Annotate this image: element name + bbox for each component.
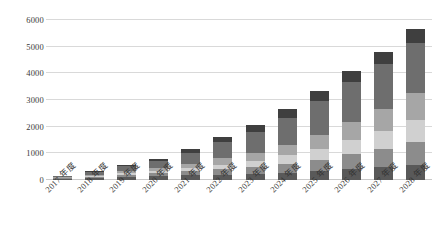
bar-column [303, 20, 335, 180]
x-axis-tick: 2022 年度 [207, 182, 239, 238]
bar-segment [278, 109, 297, 117]
bar-segment [310, 101, 329, 135]
bar-column [175, 20, 207, 180]
bar-segment [278, 118, 297, 145]
y-axis-tick-label: 0 [0, 175, 44, 185]
x-axis-tick: 2019 年度 [110, 182, 142, 238]
bar-segment [374, 64, 393, 109]
x-axis-tick: 2026 年度 [335, 182, 367, 238]
y-axis-tick-label: 4000 [0, 68, 44, 78]
x-axis-tick: 2027 年度 [368, 182, 400, 238]
bar-segment [310, 91, 329, 101]
bar-column [143, 20, 175, 180]
y-axis-tick-label: 5000 [0, 42, 44, 52]
bar-segment [342, 122, 361, 140]
bar-segment [342, 71, 361, 82]
bar-segment [213, 142, 232, 158]
bar-column [271, 20, 303, 180]
x-axis-tick: 2018 年度 [78, 182, 110, 238]
bar-column [400, 20, 432, 180]
x-axis-tick: 2024 年度 [271, 182, 303, 238]
bar-column [368, 20, 400, 180]
x-axis-tick: 2028 年度 [400, 182, 432, 238]
bar-column [46, 20, 78, 180]
bar-segment [246, 125, 265, 132]
bar-segment [406, 93, 425, 120]
bar-segment [342, 140, 361, 154]
x-axis-tick: 2023 年度 [239, 182, 271, 238]
x-axis-tick: 2021 年度 [175, 182, 207, 238]
bar-segment [342, 82, 361, 123]
y-axis-tick-label: 3000 [0, 95, 44, 105]
bar-column [239, 20, 271, 180]
bar-segment [406, 29, 425, 42]
bar-column [207, 20, 239, 180]
bar-segment [246, 132, 265, 153]
x-axis-tick: 2020 年度 [143, 182, 175, 238]
y-axis-tick-label: 1000 [0, 148, 44, 158]
bar-column [78, 20, 110, 180]
bar-segment [374, 52, 393, 64]
bar-column [335, 20, 367, 180]
bar-column [110, 20, 142, 180]
bar-segment [374, 109, 393, 131]
x-axis: 2017 年度2018 年度2019 年度2020 年度2021 年度2022 … [46, 182, 432, 238]
x-axis-tick: 2025 年度 [303, 182, 335, 238]
bar-series-group [46, 20, 432, 180]
bar-segment [406, 120, 425, 142]
y-axis-tick-label: 2000 [0, 122, 44, 132]
bar-segment [406, 43, 425, 93]
stacked-bar-chart: 0100020003000400050006000 2017 年度2018 年度… [0, 0, 440, 238]
y-axis-tick-label: 6000 [0, 15, 44, 25]
bar-segment [374, 131, 393, 149]
x-axis-tick: 2017 年度 [46, 182, 78, 238]
bar-segment [278, 145, 297, 156]
bar-segment [310, 135, 329, 149]
